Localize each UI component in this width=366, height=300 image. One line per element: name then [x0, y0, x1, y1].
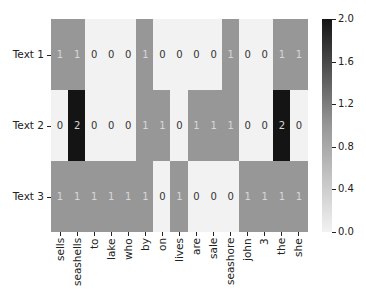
- colorbar-tick-label: 0.0: [338, 226, 354, 237]
- heatmap-cell: 0: [51, 90, 69, 161]
- y-tick-label: Text 3: [0, 190, 44, 202]
- colorbar-tick-label: 1.2: [338, 98, 354, 109]
- heatmap-cell: 1: [68, 19, 86, 90]
- colorbar-tick-label: 0.8: [338, 141, 354, 152]
- heatmap-cell: 1: [102, 161, 120, 232]
- heatmap-cell: 1: [256, 161, 274, 232]
- y-tick-mark: [47, 55, 51, 56]
- colorbar-tick-mark: [332, 189, 336, 190]
- heatmap-cell: 0: [170, 90, 188, 161]
- colorbar-tick-mark: [332, 19, 336, 20]
- colorbar-gradient: [322, 19, 332, 232]
- x-tick-mark: [162, 232, 163, 236]
- x-tick-mark: [264, 232, 265, 236]
- y-tick-mark: [47, 197, 51, 198]
- heatmap-cell: 1: [290, 161, 308, 232]
- x-tick-label: seashore: [224, 238, 236, 285]
- x-tick-label: sells: [54, 238, 66, 261]
- heatmap-cell: 1: [205, 90, 223, 161]
- x-tick-mark: [145, 232, 146, 236]
- heatmap-cell: 1: [222, 19, 240, 90]
- heatmap-cell: 1: [136, 161, 154, 232]
- x-tick-mark: [111, 232, 112, 236]
- heatmap-cell: 0: [119, 90, 137, 161]
- x-tick-mark: [247, 232, 248, 236]
- colorbar-tick-mark: [332, 62, 336, 63]
- heatmap-cell: 1: [170, 161, 188, 232]
- x-tick-label: sale: [207, 238, 219, 259]
- heatmap-cell: 0: [239, 90, 257, 161]
- x-tick-mark: [60, 232, 61, 236]
- x-tick-mark: [281, 232, 282, 236]
- heatmap-cell: 0: [85, 90, 103, 161]
- heatmap-cell: 1: [273, 19, 291, 90]
- x-tick-mark: [196, 232, 197, 236]
- heatmap-cell: 1: [68, 161, 86, 232]
- heatmap-cell: 1: [273, 161, 291, 232]
- x-tick-mark: [94, 232, 95, 236]
- y-tick-label: Text 2: [0, 119, 44, 131]
- x-tick-label: 3: [258, 238, 270, 245]
- heatmap-cell: 0: [239, 19, 257, 90]
- heatmap-cell: 0: [205, 161, 223, 232]
- y-tick-label: Text 1: [0, 48, 44, 60]
- heatmap-cell: 0: [256, 90, 274, 161]
- heatmap-cell: 0: [102, 90, 120, 161]
- heatmap-cell: 1: [136, 90, 154, 161]
- heatmap-cell: 2: [273, 90, 291, 161]
- heatmap-cell: 1: [239, 161, 257, 232]
- x-tick-label: seashells: [71, 238, 83, 286]
- x-tick-label: who: [122, 238, 134, 260]
- x-tick-mark: [77, 232, 78, 236]
- x-tick-label: lives: [173, 238, 185, 262]
- heatmap-cell: 2: [68, 90, 86, 161]
- heatmap-cell: 0: [205, 19, 223, 90]
- x-tick-label: she: [292, 238, 304, 257]
- colorbar-tick-mark: [332, 147, 336, 148]
- heatmap-cell: 0: [119, 19, 137, 90]
- x-tick-mark: [298, 232, 299, 236]
- heatmap-cell: 1: [51, 19, 69, 90]
- colorbar-tick-mark: [332, 232, 336, 233]
- heatmap-cell: 1: [188, 90, 206, 161]
- x-tick-mark: [230, 232, 231, 236]
- heatmap-cell: 0: [102, 19, 120, 90]
- colorbar-tick-label: 2.0: [338, 13, 354, 24]
- colorbar-tick-mark: [332, 104, 336, 105]
- heatmap-cell: 1: [136, 19, 154, 90]
- x-tick-label: are: [190, 238, 202, 255]
- heatmap-cell: 1: [85, 161, 103, 232]
- heatmap-cell: 1: [153, 90, 171, 161]
- heatmap-cell: 0: [256, 19, 274, 90]
- x-tick-label: lake: [105, 238, 117, 260]
- heatmap-cell: 0: [188, 161, 206, 232]
- heatmap-cell: 1: [119, 161, 137, 232]
- colorbar-tick-label: 0.4: [338, 183, 354, 194]
- heatmap-cell: 0: [290, 90, 308, 161]
- heatmap-cell: 0: [170, 19, 188, 90]
- heatmap-cell: 0: [85, 19, 103, 90]
- heatmap-cell: 0: [153, 161, 171, 232]
- x-tick-mark: [128, 232, 129, 236]
- heatmap-cell: 1: [290, 19, 308, 90]
- x-tick-mark: [213, 232, 214, 236]
- heatmap-cell: 0: [222, 161, 240, 232]
- heatmap-cell: 0: [188, 19, 206, 90]
- x-tick-label: john: [241, 238, 253, 261]
- colorbar-tick-label: 1.6: [338, 56, 354, 67]
- x-tick-label: to: [88, 238, 100, 249]
- x-tick-label: the: [275, 238, 287, 255]
- heatmap-chart: 1100010000100110200011011100201111110100…: [0, 0, 366, 300]
- heatmap-cell: 1: [51, 161, 69, 232]
- y-tick-mark: [47, 126, 51, 127]
- x-tick-label: on: [156, 238, 168, 251]
- x-tick-label: by: [139, 238, 151, 251]
- heatmap-cell: 0: [153, 19, 171, 90]
- x-tick-mark: [179, 232, 180, 236]
- heatmap-cell: 1: [222, 90, 240, 161]
